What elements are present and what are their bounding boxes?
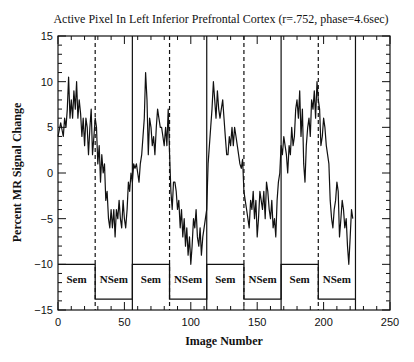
block-label-nsem: NSem (100, 273, 128, 285)
signal-trace (58, 73, 353, 265)
y-tick-label: 10 (41, 76, 53, 88)
x-tick-label: 200 (314, 316, 332, 328)
y-tick-label: 5 (47, 121, 53, 133)
x-tick-label: 0 (55, 316, 61, 328)
y-tick-label: −15 (34, 304, 53, 316)
block-label-sem: Sem (290, 273, 310, 285)
block-label-nsem: NSem (174, 273, 202, 285)
y-tick-label: 15 (41, 30, 53, 42)
plot-area: −15−10−5051015050100150200250SemNSemSemN… (0, 0, 414, 362)
y-tick-label: 0 (47, 167, 53, 179)
y-tick-label: −10 (34, 258, 53, 270)
plot-frame (58, 36, 390, 310)
y-tick-label: −5 (40, 213, 53, 225)
x-tick-label: 150 (248, 316, 266, 328)
block-label-sem: Sem (67, 273, 87, 285)
block-label-nsem: NSem (248, 273, 276, 285)
block-label-nsem: NSem (323, 273, 351, 285)
x-tick-label: 250 (381, 316, 399, 328)
x-tick-label: 50 (118, 316, 130, 328)
x-tick-label: 100 (182, 316, 200, 328)
block-label-sem: Sem (141, 273, 161, 285)
block-label-sem: Sem (215, 273, 235, 285)
